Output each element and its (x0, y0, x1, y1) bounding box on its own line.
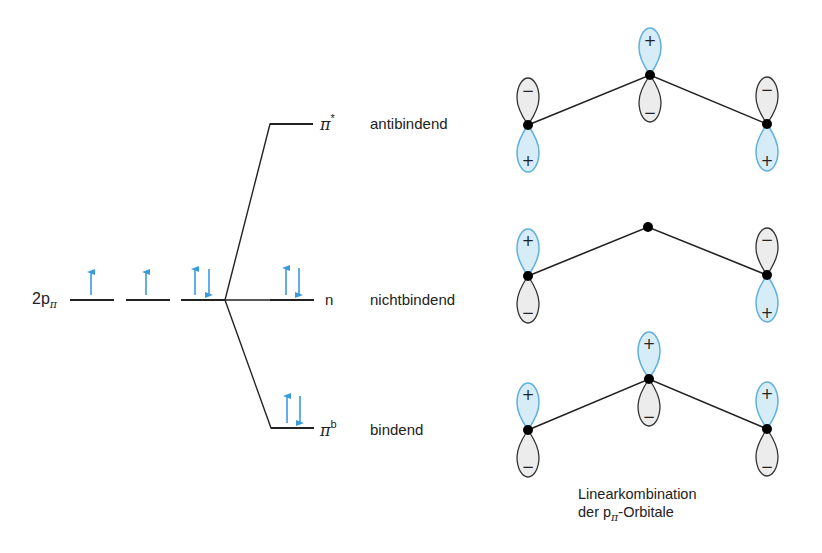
svg-text:−: − (522, 82, 535, 100)
svg-text:−: − (522, 304, 535, 322)
ao-label: 2pπ (32, 290, 57, 311)
svg-text:+: + (643, 335, 656, 353)
svg-text:+: + (644, 32, 657, 50)
svg-text:−: − (643, 408, 656, 426)
svg-text:−: − (761, 81, 774, 99)
mo-symbol-bonding: πb (320, 418, 337, 440)
svg-text:−: − (761, 458, 774, 476)
svg-text:+: + (522, 386, 535, 404)
electron-arrows (91, 268, 300, 423)
svg-text:+: + (522, 232, 535, 250)
orbital-row-antibonding: −+ +− −+ (517, 28, 778, 172)
mo-levels (270, 124, 314, 428)
svg-text:−: − (644, 104, 657, 122)
ao-label-sub: π (50, 298, 57, 311)
caption-prefix: der p (578, 504, 611, 520)
caption-line-2: der pπ-Orbitale (578, 503, 697, 527)
svg-text:+: + (761, 304, 774, 322)
mo-desc-antibonding: antibindend (370, 115, 448, 132)
svg-text:−: − (761, 231, 774, 249)
orbital-row-bonding: +− +− +− (517, 332, 778, 477)
caption-line-1: Linearkombination (578, 485, 697, 503)
mo-symbol-antibonding: π* (320, 112, 335, 134)
mo-symbol: n (325, 291, 333, 308)
svg-text:+: + (761, 385, 774, 403)
mo-desc-bonding: bindend (370, 421, 423, 438)
mo-desc-nonbonding: nichtbindend (370, 291, 455, 308)
caption: Linearkombination der pπ-Orbitale (578, 485, 697, 527)
mo-symbol: π (320, 421, 331, 440)
caption-suffix: -Orbitale (618, 504, 674, 520)
ao-label-main: 2p (32, 290, 50, 307)
mo-superscript: * (331, 112, 335, 124)
mo-symbol: π (320, 115, 331, 134)
orbital-row-nonbonding: +− −+ (517, 222, 778, 323)
mo-symbol-nonbonding: n (325, 291, 333, 308)
svg-text:+: + (522, 152, 535, 170)
mo-diagram-canvas: −+ +− −+ +− −+ +− +− +− (0, 0, 822, 553)
svg-text:−: − (522, 458, 535, 476)
mo-superscript: b (331, 418, 337, 430)
svg-text:+: + (761, 152, 774, 170)
